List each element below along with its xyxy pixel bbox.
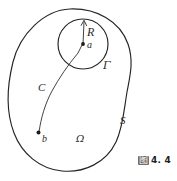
caption-number: 4. 4: [151, 155, 171, 165]
label-inner-boundary-gamma: Γ: [102, 59, 111, 72]
outer-boundary-path: [8, 9, 131, 171]
label-point-b: b: [42, 133, 47, 144]
curve-c-path: [39, 45, 82, 132]
figure-container: R a Γ C b Ω S 图 4. 4: [0, 0, 177, 181]
radius-arrow-line: [83, 22, 84, 44]
end-point-b-dot: [37, 131, 41, 135]
figure-caption: 图 4. 4: [138, 155, 171, 165]
label-radius-R: R: [86, 25, 95, 39]
label-center-a: a: [87, 39, 92, 50]
label-region-omega: Ω: [75, 133, 84, 144]
label-curve-C: C: [38, 81, 46, 93]
center-point-a-dot: [81, 42, 85, 46]
figure-drawing: R a Γ C b Ω S: [0, 0, 177, 181]
caption-prefix-glyph: 图: [138, 156, 149, 165]
label-outer-boundary-S: S: [120, 114, 126, 126]
